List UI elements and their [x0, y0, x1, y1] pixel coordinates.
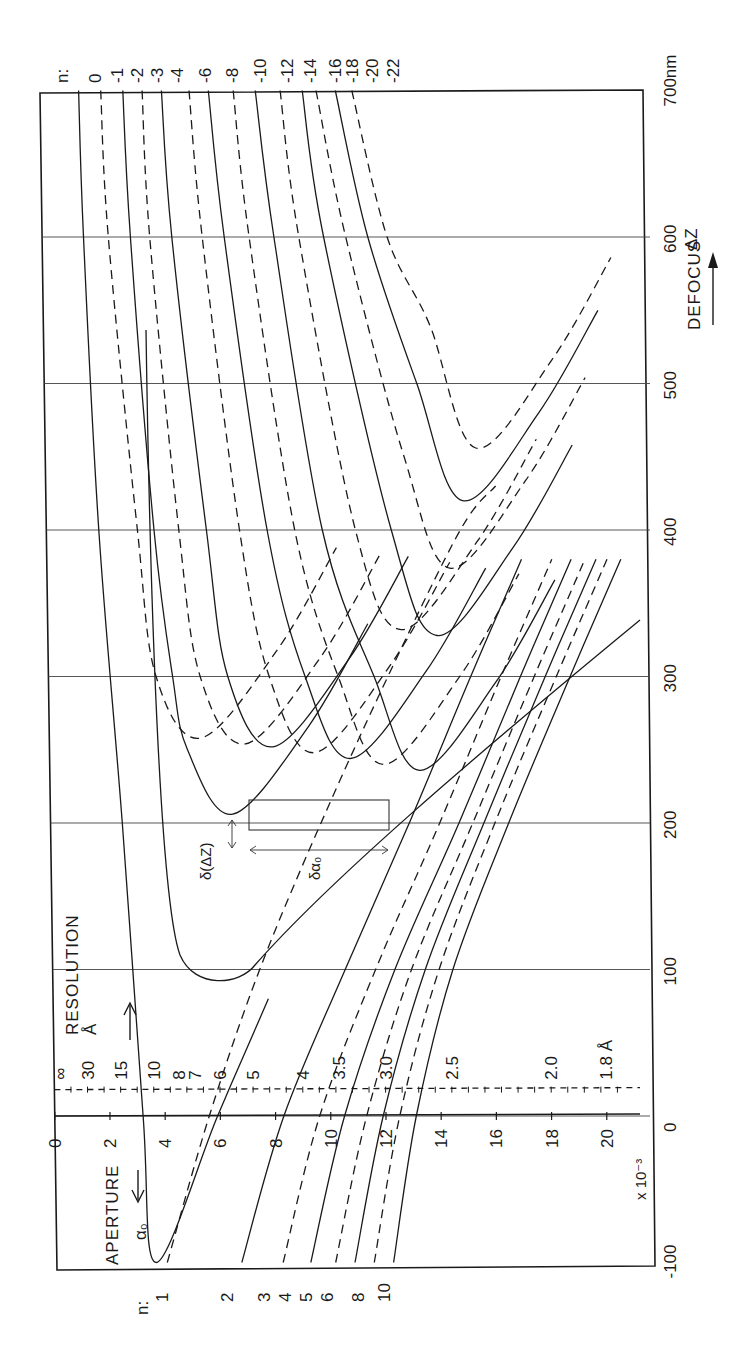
tolerance-annotation: δ(ΔZ) δα₀ [197, 800, 389, 880]
defocus-tick-label: 200 [661, 811, 680, 839]
aperture-symbol: α₀ [131, 1223, 150, 1240]
n-label-bottom: 4 [276, 1293, 295, 1302]
defocus-symbol: ΔZ [682, 228, 701, 250]
aperture-tick-label: 20 [598, 1129, 617, 1148]
n-label-bottom: 10 [375, 1283, 394, 1302]
delta-defocus-label: δ(ΔZ) [197, 842, 214, 880]
n-label-bottom: 8 [349, 1293, 368, 1302]
resolution-tick-label: 5 [244, 1070, 263, 1079]
defocus-tick-label: -100 [661, 1244, 680, 1278]
n-label-top: -6 [196, 68, 215, 83]
curve-n--22 [352, 91, 611, 449]
n-label-prefix-top: n: [53, 69, 72, 83]
n-label-top: 0 [86, 74, 105, 83]
figure-rotated-chart: -1000100200300400500600700nmDEFOCUSΔZ024… [0, 0, 740, 1355]
resolution-tick-label: 6 [211, 1070, 230, 1079]
resolution-tick-label: 2.5 [443, 1056, 462, 1080]
n-label-bottom: 3 [255, 1293, 274, 1302]
curve-n--2 [123, 91, 368, 815]
defocus-tick-label: 100 [661, 957, 680, 985]
resolution-tick-label: 1.8 Å [597, 1039, 616, 1079]
n-label-prefix-bottom: n: [133, 1301, 152, 1315]
n-label-top: -3 [148, 68, 167, 83]
aperture-scale-label: x 10⁻³ [632, 1159, 649, 1200]
aperture-tick-label: 10 [322, 1129, 341, 1148]
n-label-top: -2 [128, 68, 147, 83]
resolution-tick-label: 7 [186, 1070, 205, 1079]
delta-aperture-label: δα₀ [306, 857, 323, 880]
curve-n--6 [189, 91, 450, 753]
n-label-top: -8 [223, 68, 242, 83]
curve-n-4 [311, 559, 571, 1262]
aperture-tick-label: 18 [543, 1129, 562, 1148]
resolution-unit: Å [81, 1023, 100, 1035]
defocus-tick-label: 400 [661, 518, 680, 546]
resolution-tick-label: 2.0 [542, 1056, 561, 1080]
curve-n-2 [242, 559, 522, 1262]
curve-n-3 [283, 559, 552, 1262]
aperture-tick-label: 8 [267, 1139, 286, 1148]
curve-n--12 [255, 91, 555, 771]
label-group: -1000100200300400500600700nmDEFOCUSΔZ024… [46, 55, 704, 1315]
aperture-tick-label: 12 [377, 1129, 396, 1148]
n-label-top: -20 [363, 58, 382, 83]
aperture-arrow-icon [132, 1170, 144, 1202]
aperture-tick-label: 14 [432, 1129, 451, 1148]
n-label-top: -14 [301, 58, 320, 83]
resolution-tick-label: 3.0 [377, 1056, 396, 1080]
defocus-axis-title: DEFOCUS [685, 240, 704, 330]
resolution-tick-label: 15 [112, 1061, 131, 1080]
resolution-axis-title: RESOLUTION [63, 914, 82, 1035]
resolution-tick-label: 3.5 [330, 1056, 349, 1080]
curve-n--3 [142, 91, 381, 745]
defocus-tick-label: 0 [661, 1123, 680, 1132]
resolution-tick-label: ∞ [51, 1068, 70, 1080]
aperture-tick-label: 16 [487, 1129, 506, 1148]
defocus-tick-label: 300 [661, 664, 680, 692]
n-label-bottom: 1 [153, 1293, 172, 1302]
n-label-top: -4 [168, 68, 187, 83]
curve-n--4 [161, 91, 408, 747]
aperture-tick-label: 2 [101, 1139, 120, 1148]
curve-n--16 [302, 91, 572, 636]
n-label-bottom: 6 [318, 1293, 337, 1302]
curve-n-0-branch [146, 330, 640, 981]
resolution-axis [54, 1088, 640, 1090]
aperture-tick-label: 0 [46, 1139, 65, 1148]
defocus-tick-label: 500 [661, 371, 680, 399]
resolution-tick-label: 10 [145, 1061, 164, 1080]
aperture-tick-label: 6 [211, 1139, 230, 1148]
n-label-bottom: 2 [218, 1293, 237, 1302]
n-label-top: -12 [278, 58, 297, 83]
curve-n--8 [208, 91, 485, 759]
aperture-axis-title: APERTURE [103, 1165, 122, 1265]
n-label-top: -1 [108, 68, 127, 83]
n-label-top: -10 [251, 58, 270, 83]
defocus-arrow-icon [708, 252, 718, 325]
resolution-tick-label: 30 [79, 1061, 98, 1080]
n-label-top: -18 [343, 58, 362, 83]
n-label-bottom: 5 [297, 1293, 316, 1302]
n-label-top: -22 [384, 58, 403, 83]
defocus-aperture-chart: -1000100200300400500600700nmDEFOCUSΔZ024… [0, 0, 740, 1355]
curve-n--20 [335, 91, 598, 501]
aperture-tick-label: 4 [156, 1139, 175, 1148]
resolution-arrow-icon [124, 1003, 136, 1040]
defocus-tick-label: 700nm [661, 55, 680, 107]
resolution-tick-label: 4 [294, 1070, 313, 1079]
defocus-tick-label: 600 [661, 225, 680, 253]
